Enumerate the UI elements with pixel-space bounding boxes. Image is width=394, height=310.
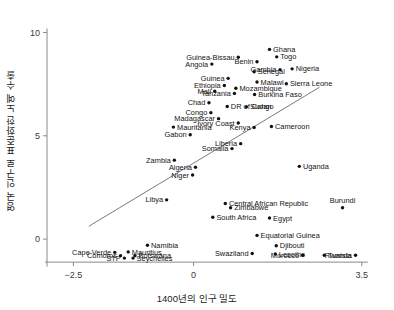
data-point-label: Morocco — [271, 251, 299, 260]
data-point-label: STP — [106, 254, 120, 263]
data-point-label: Uganda — [303, 162, 330, 171]
data-point-label: Togo — [280, 52, 296, 61]
data-point — [194, 165, 197, 168]
data-point — [189, 133, 192, 136]
data-point-label: Burundi — [330, 196, 356, 205]
data-point — [233, 92, 236, 95]
data-point — [234, 87, 237, 90]
data-point — [255, 234, 258, 237]
data-point — [210, 62, 213, 65]
x-tick-label: −2.5 — [65, 270, 83, 280]
data-point-label: Libya — [145, 195, 164, 204]
data-point-label: Angola — [185, 60, 209, 69]
data-point — [223, 84, 226, 87]
data-point — [270, 125, 273, 128]
data-point — [191, 173, 194, 176]
data-point — [123, 256, 126, 259]
data-point — [255, 60, 258, 63]
data-point-label: South Africa — [216, 213, 257, 222]
data-point — [341, 206, 344, 209]
data-point — [268, 216, 271, 219]
data-point-label: Somalia — [202, 144, 230, 153]
y-tick-label: 0 — [35, 234, 40, 244]
data-point — [275, 55, 278, 58]
y-tick-label: 10 — [30, 28, 40, 38]
data-point-label: Chad — [188, 98, 206, 107]
data-point-label: Burkina Faso — [258, 90, 302, 99]
data-point-label: Seychelles — [137, 254, 173, 263]
data-point — [239, 142, 242, 145]
data-point — [172, 125, 175, 128]
x-tick-label: 0 — [191, 270, 196, 280]
data-point-label: Cameroon — [275, 122, 310, 131]
data-point — [131, 256, 134, 259]
plot-canvas: GhanaTogoGuinea-BissauBeninAngolaGambiaN… — [0, 0, 394, 310]
data-point-label: Swaziland — [215, 249, 249, 258]
data-point — [275, 244, 278, 247]
scatter-plot-chart: GhanaTogoGuinea-BissauBeninAngolaGambiaN… — [0, 0, 394, 310]
data-point — [226, 105, 229, 108]
data-point — [253, 93, 256, 96]
data-point-label: Zambia — [146, 156, 172, 165]
data-point — [226, 77, 229, 80]
data-point-label: Kenya — [230, 123, 252, 132]
data-point-label: Equatorial Guinea — [261, 231, 321, 240]
data-point-label: Sierra Leone — [290, 79, 332, 88]
data-point-label: Niger — [171, 171, 189, 180]
data-point — [298, 165, 301, 168]
point-labels-group: GhanaTogoGuinea-BissauBeninAngolaGambiaN… — [72, 45, 356, 263]
data-point-label: Zimbabwe — [234, 203, 268, 212]
data-point — [127, 250, 130, 253]
data-point-label: Sudan — [250, 102, 271, 111]
data-point — [285, 82, 288, 85]
x-tick-label: 3.5 — [356, 270, 369, 280]
data-point-label: Gabon — [164, 130, 186, 139]
data-point — [146, 244, 149, 247]
data-point-label: Tanzania — [201, 89, 231, 98]
data-point — [207, 101, 210, 104]
data-point — [354, 254, 357, 257]
y-tick-label: 5 — [35, 131, 40, 141]
data-point — [290, 67, 293, 70]
data-point — [251, 252, 254, 255]
data-point — [224, 202, 227, 205]
data-point-label: Nigeria — [296, 64, 320, 73]
data-point-label: Rwanda — [325, 251, 353, 260]
data-point — [211, 216, 214, 219]
data-point — [165, 198, 168, 201]
data-point — [252, 126, 255, 129]
data-point — [268, 48, 271, 51]
data-point — [173, 158, 176, 161]
data-point-label: Egypt — [273, 214, 292, 223]
data-point-label: Senegal — [258, 67, 285, 76]
